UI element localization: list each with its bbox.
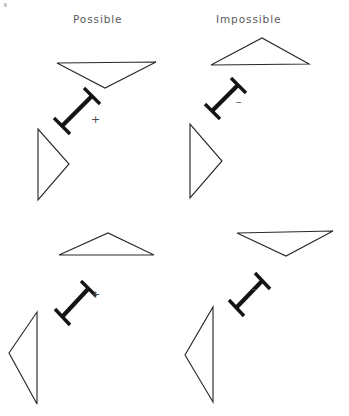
narrow-triangle-left <box>185 307 213 402</box>
figure-canvas: Possible Impossible + – <box>0 0 349 416</box>
stimulus-bottom-right <box>0 0 349 416</box>
dumbbell-bar <box>229 273 270 316</box>
wide-triangle-down <box>237 231 333 256</box>
valence-sign-bottom-right: – <box>251 283 257 294</box>
